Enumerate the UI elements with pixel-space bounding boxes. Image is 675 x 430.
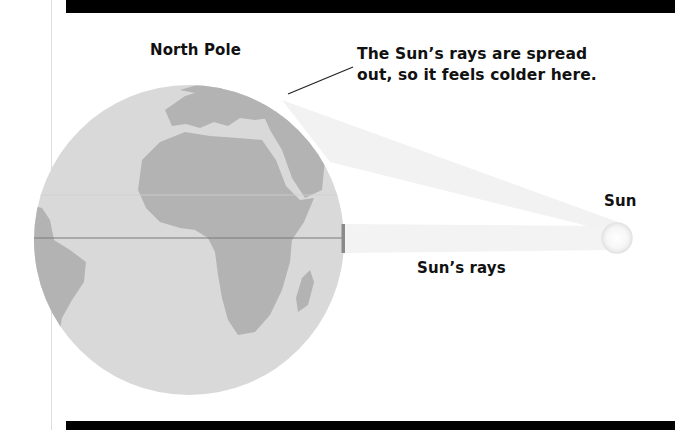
sun-icon <box>602 223 632 253</box>
earth-globe <box>10 84 345 395</box>
equator-ray-marker <box>342 224 346 253</box>
callout-line-1: The Sun’s rays are spread <box>357 44 597 65</box>
sun-label: Sun <box>604 191 636 212</box>
callout-text: The Sun’s rays are spread out, so it fee… <box>357 44 597 86</box>
north-pole-label: North Pole <box>150 40 241 61</box>
sun-rays-label: Sun’s rays <box>417 258 506 279</box>
callout-pointer-line <box>288 67 353 94</box>
callout-line-2: out, so it feels colder here. <box>357 65 597 86</box>
equator-ray-band <box>344 224 612 253</box>
